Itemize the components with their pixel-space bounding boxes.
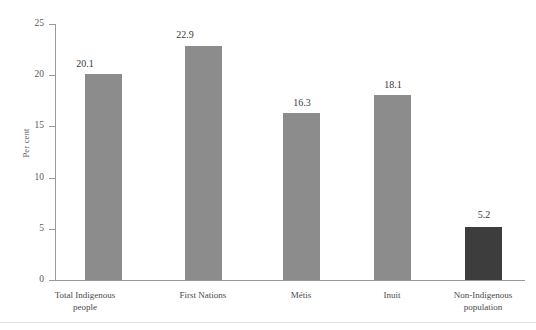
- x-label-line2: population: [425, 302, 536, 314]
- bar-total-indigenous-people[interactable]: [85, 74, 122, 280]
- y-tick-0: [49, 280, 55, 281]
- bar-value-label: 5.2: [454, 210, 514, 220]
- y-tick-label-10-wrap: 10: [18, 173, 44, 183]
- y-tick-label-15: 15: [18, 121, 44, 131]
- x-label-non-indigenous-population: Non-Indigenous population: [425, 290, 536, 313]
- bar-inuit[interactable]: [374, 95, 411, 280]
- y-tick-label-0: 0: [18, 275, 44, 285]
- y-tick-label-20: 20: [18, 70, 44, 80]
- y-tick-15: [49, 126, 55, 127]
- footer-divider: [0, 322, 536, 323]
- y-tick-label-10: 10: [18, 173, 44, 183]
- bar-value-label: 20.1: [55, 59, 115, 69]
- x-axis-line: [55, 280, 525, 281]
- x-label-line1: Total Indigenous: [27, 290, 143, 302]
- x-label-line1: Non-Indigenous: [425, 290, 536, 302]
- x-label-total-indigenous-people: Total Indigenous people: [27, 290, 143, 313]
- bar-value-label: 16.3: [272, 98, 332, 108]
- bar-first-nations[interactable]: [185, 46, 222, 280]
- y-tick-5: [49, 229, 55, 230]
- y-tick-label-20-wrap: 20: [18, 70, 44, 80]
- bar-metis[interactable]: [283, 113, 320, 280]
- y-tick-label-5: 5: [18, 224, 44, 234]
- bar-value-label: 18.1: [363, 80, 423, 90]
- y-tick-10: [49, 178, 55, 179]
- y-tick-label-25-wrap: 25: [18, 19, 44, 29]
- y-tick-label-0-wrap: 0: [18, 275, 44, 285]
- bar-non-indigenous-population[interactable]: [465, 227, 502, 280]
- y-axis-title: Per cent: [21, 108, 31, 178]
- y-tick-label-5-wrap: 5: [18, 224, 44, 234]
- x-label-line2: people: [27, 302, 143, 314]
- y-tick-label-15-wrap: 15: [18, 121, 44, 131]
- bar-chart: Per cent 0 5 10 15 20 25 20.1 Total Indi…: [0, 0, 536, 330]
- y-tick-25: [49, 24, 55, 25]
- y-tick-20: [49, 75, 55, 76]
- y-tick-label-25: 25: [18, 19, 44, 29]
- bar-value-label: 22.9: [155, 30, 215, 40]
